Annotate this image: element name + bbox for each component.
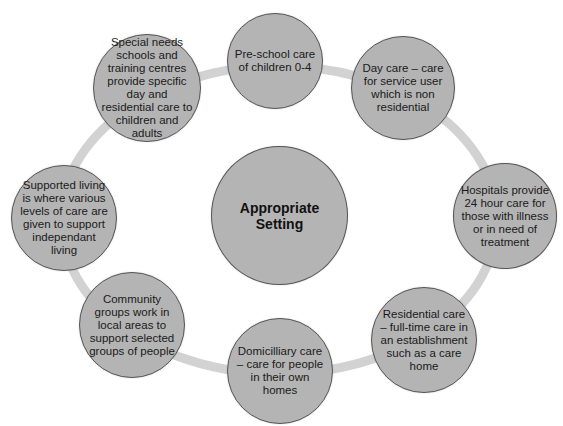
- node-label: Hospitals provide 24 hour care for those…: [454, 184, 556, 249]
- node-domiciliary: Domicilliary care – care for people in t…: [227, 318, 333, 424]
- center-node-appropriate-setting: Appropriate Setting: [211, 146, 348, 285]
- node-day-care: Day care – care for service user which i…: [351, 36, 455, 140]
- node-label: Pre-school care of children 0-4: [228, 48, 322, 74]
- node-label: Special needs schools and training centr…: [94, 36, 200, 140]
- node-label: Domicilliary care – care for people in t…: [228, 345, 332, 397]
- node-label: Community groups work in local areas to …: [80, 293, 184, 358]
- node-residential: Residential care – full-time care in an …: [371, 287, 477, 393]
- node-label: Day care – care for service user which i…: [352, 62, 454, 114]
- node-hospitals: Hospitals provide 24 hour care for those…: [453, 163, 557, 269]
- center-label: Appropriate Setting: [212, 200, 347, 232]
- node-supported-living: Supported living is where various levels…: [11, 165, 117, 271]
- node-label: Residential care – full-time care in an …: [372, 308, 476, 373]
- node-pre-school: Pre-school care of children 0-4: [227, 13, 323, 109]
- node-community: Community groups work in local areas to …: [79, 272, 185, 378]
- node-label: Supported living is where various levels…: [12, 179, 116, 257]
- node-special-needs: Special needs schools and training centr…: [93, 34, 201, 142]
